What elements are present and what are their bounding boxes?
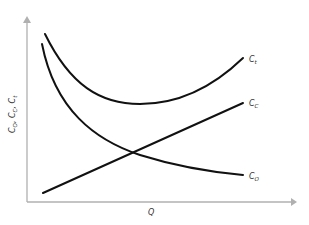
curve-carrying-cost [43,103,243,193]
x-axis-label: Q [148,208,154,217]
label-ordering-cost: CO [249,172,260,182]
y-axis-arrow-icon [23,16,31,23]
curve-ordering-cost [42,44,243,175]
curve-total-cost [45,34,243,104]
x-axis-arrow-icon [291,198,297,206]
curve-labels: Ct CC CO [249,55,260,182]
cost-tradeoff-diagram: Ct CC CO Q CO, CC, Ct [0,0,309,225]
y-axis-label: CO, CC, Ct [8,95,18,133]
label-total-cost: Ct [249,55,258,65]
curves [42,34,243,193]
label-carrying-cost: CC [249,99,259,109]
